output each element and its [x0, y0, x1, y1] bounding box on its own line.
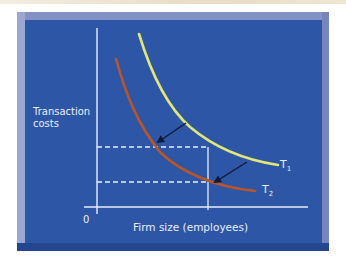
shift-arrow-upper [158, 123, 186, 142]
curve-t2 [116, 59, 255, 191]
curve-label-t1: T1 [280, 159, 291, 175]
t2-subscript: 2 [269, 190, 273, 198]
origin-label: 0 [83, 214, 89, 226]
curve-t1 [139, 34, 278, 165]
y-axis-label-line1: Transaction [33, 106, 90, 118]
t1-main: T [280, 158, 287, 171]
t1-subscript: 1 [287, 165, 291, 173]
x-axis-label: Firm size (employees) [133, 221, 248, 233]
t2-main: T [262, 183, 269, 196]
curve-label-t2: T2 [262, 184, 273, 200]
y-axis-label: Transaction costs [33, 106, 90, 130]
shift-arrow-lower [215, 162, 247, 182]
y-axis-label-line2: costs [33, 118, 90, 130]
